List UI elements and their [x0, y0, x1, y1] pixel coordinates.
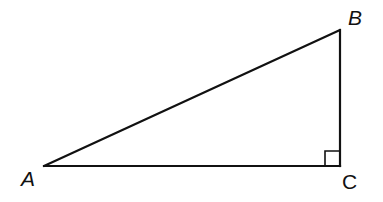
side-ab: [44, 30, 340, 166]
right-angle-marker: [325, 151, 340, 166]
triangle-diagram: A B C: [0, 0, 383, 202]
vertex-label-b: B: [348, 6, 362, 29]
vertex-label-c: C: [342, 170, 357, 193]
vertex-label-a: A: [19, 167, 35, 190]
